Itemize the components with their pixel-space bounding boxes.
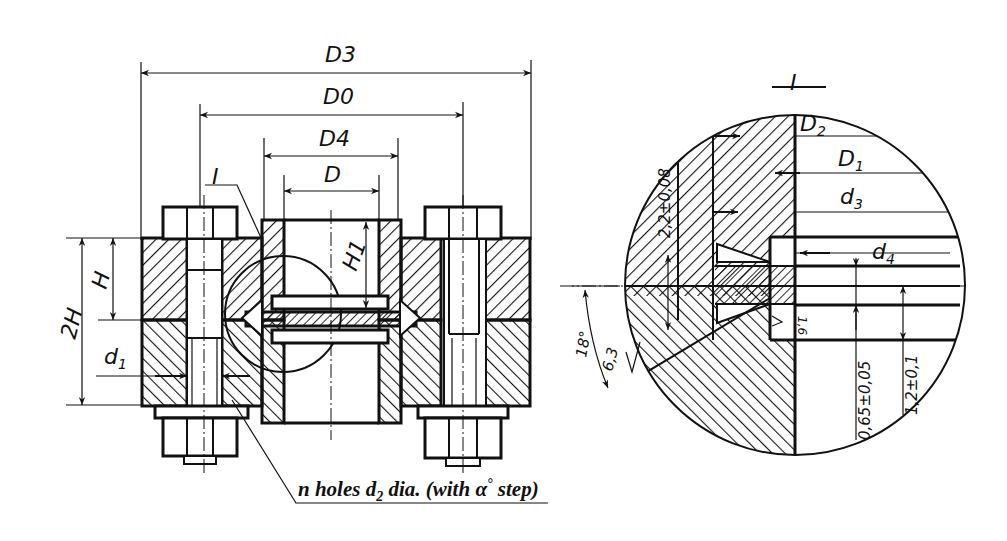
dimension-h: H <box>66 238 142 320</box>
detail-view-i: I <box>560 70 965 470</box>
label-2h: 2H <box>56 305 88 341</box>
label-tol-2-2: 2,2±0,08 <box>656 168 674 238</box>
label-d3-detail: d3 <box>840 184 863 212</box>
roughness-6-3: 6,3 <box>598 342 640 373</box>
label-d1: d1 <box>104 344 127 372</box>
label-tol-1-2: 1,2±0,1 <box>903 355 921 415</box>
holes-note-text: n holes d2 dia. (with α° step) <box>298 476 539 504</box>
label-d3: D3 <box>325 42 356 67</box>
technical-drawing: D3 D0 D4 D <box>0 0 1007 541</box>
label-tol-0-65: 0,65±0,05 <box>856 361 874 440</box>
svg-text:6,3: 6,3 <box>598 345 622 373</box>
label-angle-18: 18° <box>572 329 594 358</box>
label-d2: D2 <box>800 111 826 139</box>
svg-text:1,6: 1,6 <box>795 316 809 335</box>
label-d0: D0 <box>323 84 354 109</box>
label-h: H <box>87 269 115 291</box>
label-d1-detail: D1 <box>838 146 864 174</box>
detail-title: I <box>790 70 797 95</box>
dimension-2h: 2H <box>56 238 142 405</box>
label-d: D <box>324 162 341 187</box>
roughness-1-6: 1,6 <box>772 316 809 335</box>
label-d4: D4 <box>319 126 350 151</box>
main-section-view: D3 D0 D4 D <box>56 42 548 504</box>
